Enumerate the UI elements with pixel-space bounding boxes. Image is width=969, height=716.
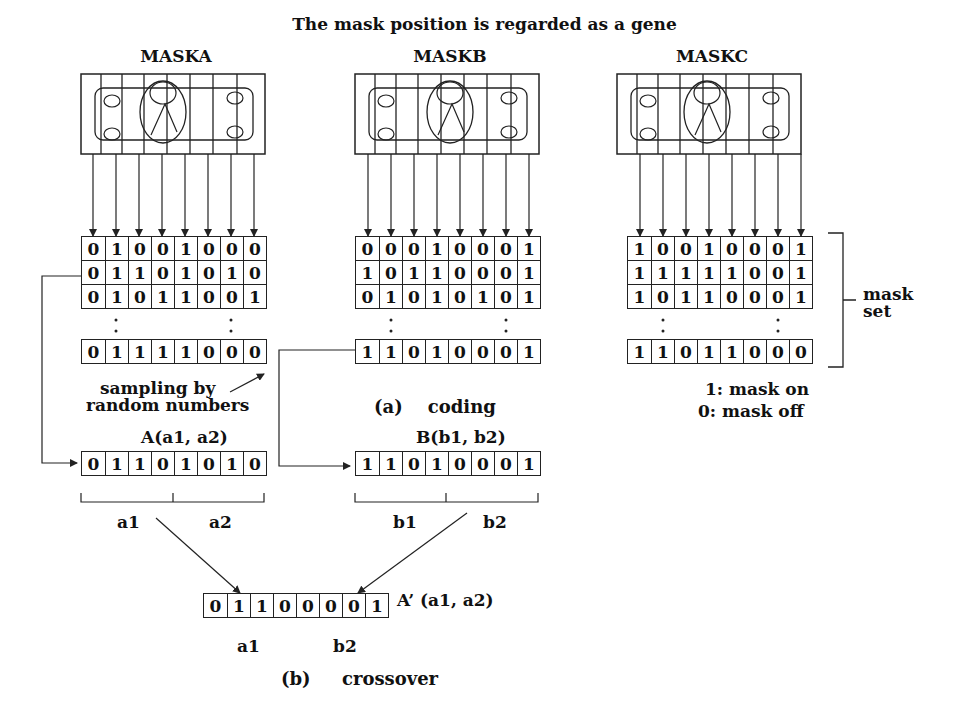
mask-c-grid: 10010001 11111001 10110001	[627, 236, 813, 309]
bit: 0	[243, 237, 266, 260]
bit: 1	[227, 594, 250, 617]
bit: 0	[448, 452, 471, 475]
bit: 0	[273, 594, 296, 617]
bit: 1	[105, 452, 128, 475]
bit: 0	[197, 261, 220, 284]
connector-a	[42, 276, 82, 463]
bit: 1	[517, 261, 540, 284]
parent-a-part-a2: a2	[209, 512, 232, 532]
bit: 1	[379, 285, 402, 308]
mask-a-face-image	[81, 74, 265, 154]
bit: 1	[128, 340, 151, 363]
bit: 1	[674, 261, 697, 284]
bit: 1	[471, 285, 494, 308]
mask-b-grid: 00010001 10110001 01010101	[355, 236, 541, 309]
legend-mask-on: 1: mask on	[705, 379, 809, 399]
bit: 0	[743, 237, 766, 260]
bit: 1	[365, 594, 388, 617]
mask-a-last-row: 01111000	[81, 339, 267, 364]
bit: 0	[197, 340, 220, 363]
connector-b	[279, 350, 355, 466]
bit: 0	[743, 285, 766, 308]
child-part-a1: a1	[237, 636, 260, 656]
mask-b-face-image	[355, 74, 539, 154]
bit: 0	[243, 452, 266, 475]
bit: 1	[720, 261, 743, 284]
bracket-a	[81, 493, 264, 502]
bit: 0	[296, 594, 319, 617]
parent-a-label: A(a1, a2)	[141, 427, 228, 447]
bit: 1	[220, 452, 243, 475]
ellipsis-dots	[115, 319, 780, 333]
mask-c-row: 10110001	[628, 284, 812, 308]
bit: 0	[448, 340, 471, 363]
bit: 1	[356, 261, 379, 284]
bit: 1	[356, 340, 379, 363]
bit: 0	[82, 237, 105, 260]
parent-b-part-b2: b2	[483, 512, 507, 532]
mask-c-face-image	[617, 74, 801, 154]
sampling-line2: random numbers	[86, 397, 249, 414]
bit: 0	[651, 237, 674, 260]
bit: 1	[128, 261, 151, 284]
bit: 1	[697, 261, 720, 284]
legend-mask-off: 0: mask off	[698, 401, 804, 421]
bit: 0	[128, 285, 151, 308]
bit: 0	[766, 285, 789, 308]
bit: 1	[697, 237, 720, 260]
bit: 0	[356, 237, 379, 260]
bit: 1	[674, 285, 697, 308]
mask-set-label: mask set	[863, 286, 913, 320]
bit: 0	[766, 237, 789, 260]
mask-c-row: 11111001	[628, 260, 812, 284]
bit: 0	[448, 237, 471, 260]
bit: 0	[494, 261, 517, 284]
mask-b-row: 00010001	[356, 237, 540, 260]
bit: 1	[105, 285, 128, 308]
bit: 0	[674, 237, 697, 260]
bit: 1	[174, 285, 197, 308]
bit: 0	[448, 261, 471, 284]
bit: 1	[425, 261, 448, 284]
bit: 1	[517, 340, 540, 363]
bit: 0	[220, 237, 243, 260]
bit: 1	[720, 340, 743, 363]
parent-b-chromosome: 11010001	[355, 451, 541, 476]
mask-a-row: 01101010	[82, 260, 266, 284]
bit: 0	[128, 237, 151, 260]
bit: 0	[720, 285, 743, 308]
bit: 0	[197, 285, 220, 308]
bit: 0	[720, 237, 743, 260]
bit: 1	[379, 452, 402, 475]
crossover-caption: (b) crossover	[281, 668, 438, 689]
parent-b-part-b1: b1	[393, 512, 417, 532]
bit: 1	[789, 261, 812, 284]
mask-b-arrows	[368, 154, 529, 236]
mask-b-row: 01010101	[356, 284, 540, 308]
mask-c-last-row: 11011000	[627, 339, 813, 364]
bit: 0	[151, 237, 174, 260]
mask-set-bracket	[828, 233, 856, 367]
bit: 0	[471, 237, 494, 260]
bit: 0	[766, 340, 789, 363]
sampling-note: sampling by random numbers	[86, 380, 249, 414]
bit: 0	[379, 261, 402, 284]
mask-b-last-row: 11010001	[355, 339, 541, 364]
bit: 1	[151, 285, 174, 308]
bit: 0	[674, 340, 697, 363]
mask-a-grid: 01001000 01101010 01011001	[81, 236, 267, 309]
bit: 1	[105, 261, 128, 284]
bit: 0	[197, 237, 220, 260]
bit: 1	[250, 594, 273, 617]
child-label: A’ (a1, a2)	[397, 590, 494, 610]
parent-a-chromosome: 01101010	[81, 451, 267, 476]
bit: 1	[789, 285, 812, 308]
bit: 0	[197, 452, 220, 475]
mask-b-row: 10110001	[356, 260, 540, 284]
mask-c-row: 10010001	[628, 237, 812, 260]
bit: 0	[151, 452, 174, 475]
bit: 1	[517, 285, 540, 308]
bit: 0	[494, 237, 517, 260]
bit: 0	[471, 340, 494, 363]
bit: 1	[517, 237, 540, 260]
